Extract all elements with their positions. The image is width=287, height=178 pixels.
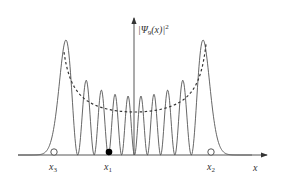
x-axis-label: x bbox=[253, 163, 257, 173]
label-x3: x3 bbox=[49, 162, 57, 174]
y-axis-label: |Ψ9(x)|2 bbox=[138, 24, 169, 37]
marker-x2-open bbox=[208, 149, 214, 155]
marker-x1-filled bbox=[106, 149, 113, 156]
probability-density-curve bbox=[18, 40, 252, 155]
classical-envelope-curve bbox=[64, 44, 206, 112]
marker-x3-open bbox=[51, 149, 57, 155]
label-x1: x1 bbox=[104, 162, 112, 174]
label-x2: x2 bbox=[207, 162, 215, 174]
